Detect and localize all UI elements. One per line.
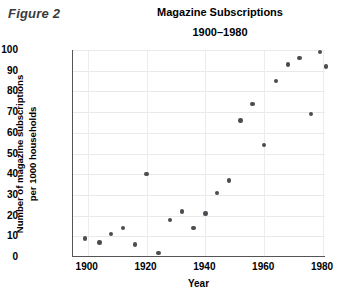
data-point bbox=[297, 56, 301, 60]
x-axis-title: Year bbox=[72, 278, 325, 289]
gridline-vertical bbox=[264, 50, 265, 256]
y-tick-label: 50 bbox=[0, 149, 18, 159]
plot-area bbox=[72, 50, 325, 257]
gridline-vertical bbox=[323, 50, 324, 256]
gridline-horizontal bbox=[73, 154, 325, 155]
data-point bbox=[156, 251, 160, 255]
x-tick-label: 1940 bbox=[181, 262, 227, 272]
y-tick-label: 70 bbox=[0, 107, 18, 117]
data-point bbox=[97, 240, 101, 244]
data-point bbox=[121, 226, 125, 230]
x-tick-label: 1960 bbox=[240, 262, 286, 272]
gridline-vertical bbox=[147, 50, 148, 256]
data-point bbox=[309, 112, 313, 116]
data-point bbox=[83, 236, 87, 240]
y-tick-label: 20 bbox=[0, 211, 18, 221]
y-tick-label: 60 bbox=[0, 128, 18, 138]
data-point bbox=[262, 143, 266, 147]
chart-subtitle: 1900–1980 bbox=[120, 26, 320, 38]
data-point bbox=[286, 62, 290, 66]
y-axis-title-line2: per 1000 households bbox=[27, 64, 39, 244]
data-point bbox=[250, 102, 254, 106]
gridline-horizontal bbox=[73, 195, 325, 196]
gridline-horizontal bbox=[73, 174, 325, 175]
figure-label: Figure 2 bbox=[8, 6, 60, 21]
x-tick-label: 1920 bbox=[123, 262, 169, 272]
y-tick-label: 100 bbox=[0, 45, 18, 55]
y-tick-label: 80 bbox=[0, 86, 18, 96]
data-point bbox=[274, 79, 278, 83]
data-point bbox=[133, 242, 137, 246]
data-point bbox=[191, 226, 195, 230]
gridline-horizontal bbox=[73, 112, 325, 113]
data-point bbox=[324, 64, 328, 68]
y-tick-label: 30 bbox=[0, 190, 18, 200]
data-point bbox=[144, 172, 148, 176]
plot-inner bbox=[73, 50, 325, 256]
gridline-horizontal bbox=[73, 236, 325, 237]
gridline-vertical bbox=[88, 50, 89, 256]
y-tick-label: 10 bbox=[0, 231, 18, 241]
data-point bbox=[318, 50, 322, 54]
gridline-horizontal bbox=[73, 91, 325, 92]
y-tick-label: 90 bbox=[0, 66, 18, 76]
data-point bbox=[238, 118, 242, 122]
x-tick-label: 1980 bbox=[299, 262, 345, 272]
data-point bbox=[227, 178, 231, 182]
figure-container: Figure 2 Magazine Subscriptions 1900–198… bbox=[0, 0, 345, 292]
gridline-horizontal bbox=[73, 133, 325, 134]
data-point bbox=[168, 218, 172, 222]
y-tick-label: 40 bbox=[0, 169, 18, 179]
y-tick-label: 0 bbox=[0, 252, 18, 262]
gridline-vertical bbox=[205, 50, 206, 256]
gridline-horizontal bbox=[73, 50, 325, 51]
gridline-horizontal bbox=[73, 216, 325, 217]
chart-title: Magazine Subscriptions bbox=[120, 6, 320, 18]
x-tick-label: 1900 bbox=[64, 262, 110, 272]
data-point bbox=[180, 209, 184, 213]
gridline-horizontal bbox=[73, 71, 325, 72]
data-point bbox=[203, 211, 207, 215]
